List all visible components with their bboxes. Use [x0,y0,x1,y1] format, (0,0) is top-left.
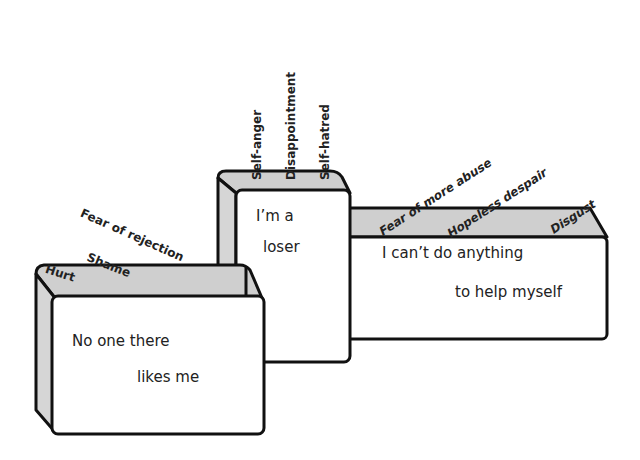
box-left-text-line1: No one there [72,332,170,350]
emotion-label-disappointment: Disappointment [284,72,298,180]
box-left-text-line2: likes me [137,368,199,386]
emotion-label-self-hatred: Self-hatred [318,104,332,180]
box-right-text-line1: I can’t do anything [382,244,523,262]
box-middle-text-line1: I’m a [256,207,294,225]
diagram-shapes [0,0,640,460]
emotion-label-self-anger: Self-anger [250,110,264,180]
box-right-text-line2: to help myself [455,283,562,301]
box-middle-text-line2: loser [263,238,300,256]
